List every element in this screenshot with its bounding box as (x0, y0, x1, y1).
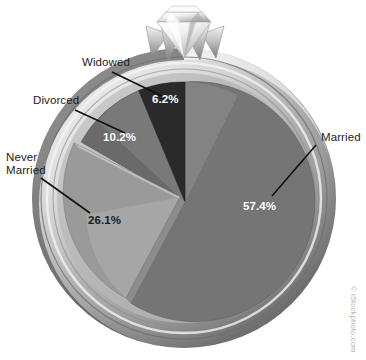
value-label-widowed: 6.2% (152, 93, 179, 105)
value-label-divorced: 10.2% (103, 131, 136, 143)
stock-photo-credit: © iStockphoto.com (349, 286, 358, 352)
pie-chart-figure: Widowed Divorced Never Married Married 6… (0, 0, 366, 360)
leader-line-never-married (41, 178, 90, 213)
label-never-married-line2: Married (6, 164, 46, 177)
value-label-married: 57.4% (243, 200, 276, 212)
label-divorced: Divorced (33, 94, 79, 107)
leader-line-divorced (75, 110, 125, 133)
leader-lines-group (0, 0, 366, 360)
label-never-married-line1: Never (6, 151, 46, 164)
label-never-married: Never Married (6, 151, 46, 177)
label-widowed: Widowed (82, 56, 130, 69)
label-married: Married (321, 131, 361, 144)
leader-line-married (272, 145, 316, 196)
value-label-never-married: 26.1% (88, 214, 121, 226)
